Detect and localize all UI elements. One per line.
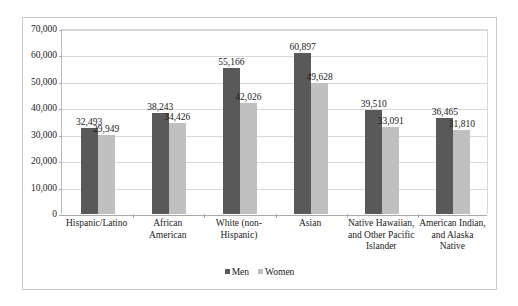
data-label: 39,510 [361,99,387,109]
data-label: 36,465 [432,107,458,117]
data-label: 31,810 [449,119,475,129]
x-axis-category-label: Asian [275,218,346,230]
bar-women[interactable] [169,123,186,214]
y-tick-label: 50,000 [31,78,62,88]
bar-men[interactable] [152,113,169,214]
y-tick-label: 30,000 [31,131,62,141]
legend-label: Men [232,267,249,277]
bar-men[interactable] [223,68,240,214]
bar-chart-figure: 010,00020,00030,00040,00050,00060,00070,… [0,0,518,306]
data-label: 55,166 [218,58,244,68]
bar-women[interactable] [453,130,470,214]
bar-men[interactable] [436,118,453,214]
y-tick-label: 20,000 [31,157,62,167]
data-label: 42,026 [235,92,261,102]
x-axis-category-label: White (non-Hispanic) [203,218,274,241]
bar-women[interactable] [98,135,115,214]
x-axis-category-label: AfricanAmerican [132,218,203,241]
plot-area: 010,00020,00030,00040,00050,00060,00070,… [61,29,488,214]
chart-frame: 010,00020,00030,00040,00050,00060,00070,… [22,17,497,290]
data-label: 49,628 [307,72,333,82]
y-tick-label: 70,000 [31,25,62,35]
bar-women[interactable] [240,103,257,214]
legend-swatch-icon [258,269,263,274]
data-label: 38,243 [147,102,173,112]
bar-group [276,30,347,214]
legend-label: Women [265,267,294,277]
data-label: 60,897 [290,43,316,53]
y-tick-label: 40,000 [31,105,62,115]
data-label: 33,091 [378,116,404,126]
x-axis-category-label: Hispanic/Latino [61,218,132,230]
x-axis-category-label: Native Hawaiian,and Other PacificIslande… [346,218,417,253]
data-label: 34,426 [164,113,190,123]
bar-groups [62,30,487,214]
legend-entry-women[interactable]: Women [258,267,294,277]
bar-women[interactable] [382,127,399,214]
legend-swatch-icon [225,269,230,274]
x-axis-labels: Hispanic/LatinoAfricanAmericanWhite (non… [61,214,488,274]
data-label: 29,949 [93,124,119,134]
x-axis-category-label: American Indian,and AlaskaNative [417,218,488,253]
bar-women[interactable] [311,83,328,214]
chart-legend: MenWomen [23,267,496,277]
legend-entry-men[interactable]: Men [225,267,249,277]
y-tick-label: 60,000 [31,52,62,62]
bar-men[interactable] [81,128,98,214]
y-tick-label: 10,000 [31,184,62,194]
